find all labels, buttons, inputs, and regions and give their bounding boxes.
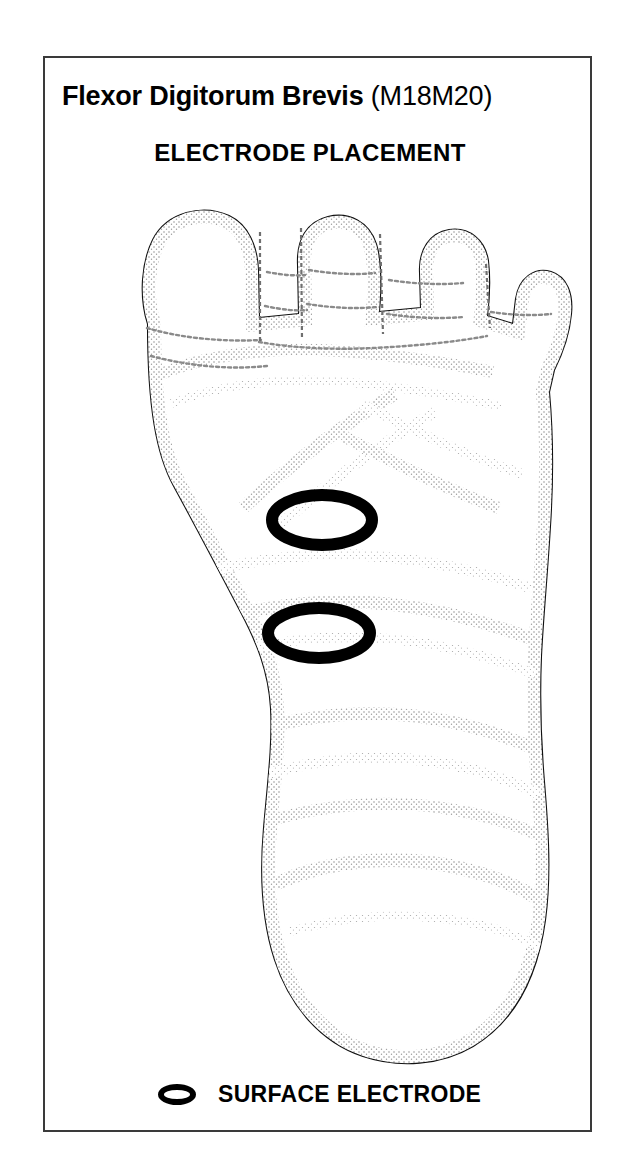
figure-page: Flexor Digitorum Brevis (M18M20) ELECTRO… <box>0 0 632 1166</box>
foot-diagram <box>43 56 592 1132</box>
surface-electrode-ring-icon <box>158 1084 196 1105</box>
legend-label: SURFACE ELECTRODE <box>218 1081 481 1108</box>
legend: SURFACE ELECTRODE <box>158 1077 481 1111</box>
